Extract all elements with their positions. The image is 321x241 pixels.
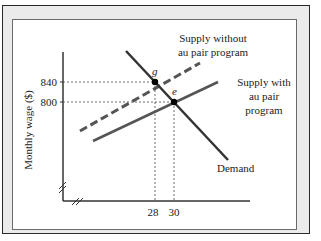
guide-lines — [63, 82, 174, 201]
demand-label: Demand — [217, 162, 255, 174]
y-tick-800: 800 — [41, 96, 58, 108]
supply-without-label-line1: Supply without — [179, 32, 247, 44]
point-e-label: e — [172, 85, 177, 97]
y-axis-label: Monthly wage ($) — [22, 90, 35, 170]
y-tick-840: 840 — [41, 76, 58, 88]
point-e-marker — [171, 99, 177, 105]
point-g-marker — [152, 79, 158, 85]
supply-with-label-line1: Supply with — [237, 76, 291, 88]
supply-with-label-line2: au pair — [249, 90, 280, 102]
supply-with-label-line3: program — [245, 104, 283, 116]
point-g-label: g — [152, 65, 158, 77]
x-tick-30: 30 — [169, 206, 181, 218]
chart-svg: g e 840 800 28 30 Monthly wage ($) Deman… — [0, 0, 321, 241]
supply-without-label-line2: au pair program — [178, 46, 249, 58]
x-tick-28: 28 — [148, 206, 160, 218]
demand-curve — [126, 51, 228, 160]
supply-without-curve — [80, 63, 200, 131]
